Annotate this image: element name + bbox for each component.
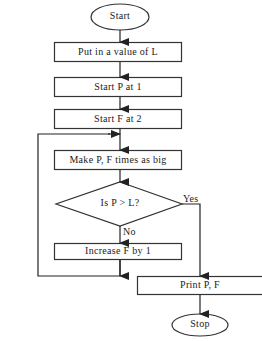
arrow-decision-yes — [182, 204, 200, 276]
print-label: Print P, F — [137, 279, 262, 290]
decision-label: Is P > L? — [70, 197, 170, 208]
multiply-label: Make P, F times as big — [54, 154, 182, 165]
stop-label: Stop — [172, 318, 228, 329]
init-f-label: Start F at 2 — [54, 113, 182, 124]
init-p-label: Start P at 1 — [54, 81, 182, 92]
increment-label: Increase F by 1 — [54, 245, 182, 256]
start-label: Start — [91, 10, 149, 21]
no-edge-label: No — [123, 226, 136, 237]
yes-edge-label: Yes — [183, 193, 198, 204]
flowchart-canvas: Start Put in a value of L Start P at 1 S… — [0, 0, 262, 341]
input-l-label: Put in a value of L — [54, 46, 182, 57]
